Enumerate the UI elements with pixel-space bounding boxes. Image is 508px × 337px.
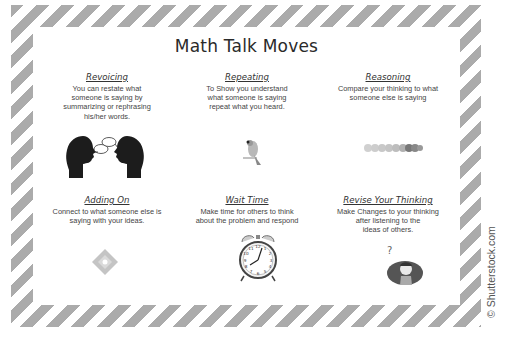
svg-text:10: 10: [243, 251, 249, 256]
svg-text:7: 7: [250, 269, 253, 274]
svg-text:12: 12: [255, 244, 261, 249]
card-description: Make time for others to think about the …: [177, 207, 317, 225]
card-heading: Repeating: [177, 72, 317, 82]
two-heads-talking-icon: [65, 132, 145, 178]
card-description: Connect to what someone else is saying w…: [29, 207, 185, 225]
card-adding-on: Adding On Connect to what someone else i…: [29, 195, 185, 225]
card-revise-thinking: Revise Your Thinking Make Changes to you…: [318, 195, 458, 235]
card-revoicing: Revoicing You can restate what someone i…: [37, 72, 177, 121]
card-repeating: Repeating To Show you understand what so…: [177, 72, 317, 112]
page-title: Math Talk Moves: [33, 36, 460, 56]
card-description: You can restate what someone is saying b…: [37, 84, 177, 121]
card-wait-time: Wait Time Make time for others to think …: [177, 195, 317, 225]
card-heading: Reasoning: [318, 72, 458, 82]
alarm-clock-icon: 1212 345 678 91011: [236, 232, 280, 284]
svg-text:?: ?: [387, 245, 392, 256]
svg-text:11: 11: [248, 246, 254, 251]
svg-text:1: 1: [264, 246, 267, 251]
card-description: Compare your thinking to what someone el…: [318, 84, 458, 102]
card-heading: Revoicing: [37, 72, 177, 82]
card-heading: Wait Time: [177, 195, 317, 205]
svg-text:3: 3: [270, 258, 273, 263]
card-heading: Adding On: [29, 195, 185, 205]
card-description: To Show you understand what someone is s…: [177, 84, 317, 112]
svg-text:9: 9: [244, 258, 247, 263]
thinking-boy-icon: ?: [381, 245, 425, 289]
card-reasoning: Reasoning Compare your thinking to what …: [318, 72, 458, 102]
striped-border-frame: Math Talk Moves Revoicing You can restat…: [11, 5, 481, 327]
svg-text:4: 4: [269, 264, 272, 269]
puzzle-cross-icon: [90, 247, 120, 277]
poster-content: Math Talk Moves Revoicing You can restat…: [33, 27, 460, 305]
svg-text:2: 2: [269, 251, 272, 256]
parrot-icon: [241, 137, 265, 167]
beads-row-icon: [363, 143, 423, 153]
card-heading: Revise Your Thinking: [318, 195, 458, 205]
svg-text:5: 5: [264, 269, 267, 274]
svg-text:6: 6: [257, 271, 260, 276]
card-description: Make Changes to your thinking after list…: [318, 207, 458, 235]
watermark-text: © Shutterstock.com: [485, 226, 497, 318]
svg-text:8: 8: [245, 264, 248, 269]
